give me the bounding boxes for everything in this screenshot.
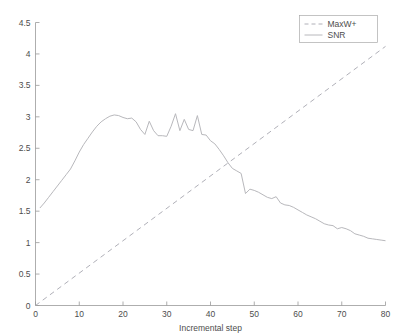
- y-tick-label: 4: [26, 49, 31, 59]
- x-tick-label: 80: [381, 309, 391, 319]
- legend-label-snr: SNR: [328, 30, 346, 40]
- chart-legend[interactable]: MaxW+ SNR: [300, 16, 378, 43]
- x-tick-label: 10: [75, 309, 85, 319]
- y-axis-ticks: [36, 23, 40, 306]
- series-line-snr: [40, 114, 386, 241]
- plot-area: 00.511.522.533.544.5 01020304050607080 I…: [19, 18, 391, 333]
- y-tick-label: 1.5: [19, 206, 31, 216]
- y-axis-tick-labels: 00.511.522.533.544.5: [19, 18, 31, 311]
- x-axis-ticks: [36, 302, 386, 306]
- y-tick-label: 0: [26, 301, 31, 311]
- y-tick-label: 2.5: [19, 143, 31, 153]
- y-tick-label: 3: [26, 112, 31, 122]
- x-tick-label: 70: [337, 309, 347, 319]
- x-tick-label: 0: [33, 309, 38, 319]
- x-axis-label: Incremental step: [179, 323, 242, 333]
- chart-figure: 00.511.522.533.544.5 01020304050607080 I…: [0, 0, 397, 335]
- x-axis-tick-labels: 01020304050607080: [33, 309, 390, 319]
- x-tick-label: 60: [293, 309, 303, 319]
- y-tick-label: 1: [26, 238, 31, 248]
- y-tick-label: 4.5: [19, 18, 31, 28]
- y-tick-label: 2: [26, 175, 31, 185]
- y-tick-label: 0.5: [19, 269, 31, 279]
- x-tick-label: 20: [118, 309, 128, 319]
- line-chart: 00.511.522.533.544.5 01020304050607080 I…: [0, 0, 397, 335]
- x-tick-label: 30: [162, 309, 172, 319]
- x-tick-label: 40: [206, 309, 216, 319]
- y-tick-label: 3.5: [19, 80, 31, 90]
- x-tick-label: 50: [250, 309, 260, 319]
- series-line-maxw: [36, 46, 386, 305]
- legend-label-maxw: MaxW+: [328, 19, 357, 29]
